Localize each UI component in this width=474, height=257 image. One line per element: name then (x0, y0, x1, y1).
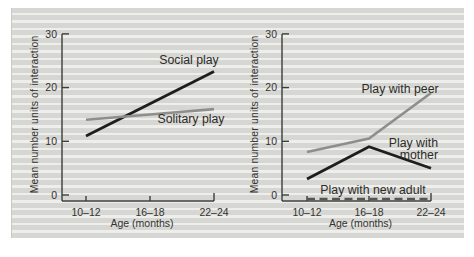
x-tick-label: 10–12 (292, 206, 321, 218)
y-axis-label: Mean number units of interaction (249, 36, 260, 194)
y-tick-label: 0 (51, 189, 57, 201)
x-axis-label: Age (months) (110, 217, 173, 229)
play-with-mother-label: mother (400, 148, 438, 162)
y-axis-label: Mean number units of interaction (29, 36, 40, 194)
y-tick-label: 20 (265, 81, 277, 93)
left-chart: 010203010–1216–1822–24Age (months)Mean n… (29, 28, 229, 229)
x-axis-label: Age (months) (329, 217, 392, 229)
y-tick-label: 0 (271, 189, 277, 201)
y-tick-label: 30 (45, 28, 57, 40)
social-play-label: Social play (159, 53, 219, 67)
solitary-play-label: Solitary play (158, 112, 226, 126)
play-interaction-charts: 010203010–1216–1822–24Age (months)Mean n… (0, 0, 474, 257)
y-tick-label: 10 (265, 135, 277, 147)
y-tick-label: 30 (265, 28, 277, 40)
social-play-line (86, 72, 214, 136)
play-with-new-adult-label: Play with new adult (320, 183, 426, 197)
x-tick-label: 22–24 (199, 206, 228, 218)
y-tick-label: 20 (45, 81, 57, 93)
x-tick-label: 10–12 (71, 206, 100, 218)
play-with-peer-label: Play with peer (361, 82, 438, 96)
y-tick-label: 10 (45, 135, 57, 147)
figure: 010203010–1216–1822–24Age (months)Mean n… (0, 0, 474, 257)
x-tick-label: 22–24 (416, 206, 445, 218)
right-chart: 010203010–1216–1822–24Age (months)Mean n… (249, 28, 446, 229)
